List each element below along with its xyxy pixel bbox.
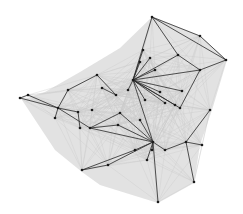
graph-node	[201, 144, 204, 147]
graph-node	[57, 107, 60, 110]
graph-node	[199, 69, 202, 72]
graph-node	[209, 109, 212, 112]
graph-node	[127, 89, 130, 92]
graph-node	[146, 159, 149, 162]
graph-node	[79, 127, 82, 130]
graph-node	[199, 35, 202, 38]
graph-node	[119, 112, 122, 115]
graph-node	[67, 89, 70, 92]
graph-node	[96, 74, 99, 77]
graph-node	[81, 169, 84, 172]
graph-hull-region	[22, 17, 227, 203]
graph-node	[193, 181, 196, 184]
graph-node	[152, 141, 155, 144]
graph-node	[142, 49, 145, 52]
graph-node	[179, 107, 182, 110]
graph-node	[115, 94, 118, 97]
graph-node	[132, 79, 135, 82]
graph-node	[181, 90, 184, 93]
graph-node	[89, 127, 92, 130]
graph-node	[139, 61, 142, 64]
graph-node	[54, 117, 57, 120]
graph-node	[164, 102, 167, 105]
graph-node	[139, 119, 142, 122]
graph-node	[19, 97, 22, 100]
graph-node	[151, 149, 154, 152]
graph-node	[185, 141, 188, 144]
graph-node	[77, 111, 80, 114]
graph-node	[177, 54, 180, 57]
graph-node	[159, 91, 162, 94]
graph-node	[27, 94, 30, 97]
graph-node	[154, 69, 157, 72]
graph-node	[117, 124, 120, 127]
graph-node	[164, 149, 167, 152]
graph-node	[144, 99, 147, 102]
graph-node	[151, 16, 154, 19]
graph-node	[174, 104, 177, 107]
graph-node	[101, 87, 104, 90]
network-graph	[0, 0, 243, 214]
graph-node	[134, 149, 137, 152]
graph-node	[107, 164, 110, 167]
graph-node	[225, 59, 228, 62]
graph-node	[149, 57, 152, 60]
graph-node	[91, 109, 94, 112]
graph-node	[157, 201, 160, 204]
